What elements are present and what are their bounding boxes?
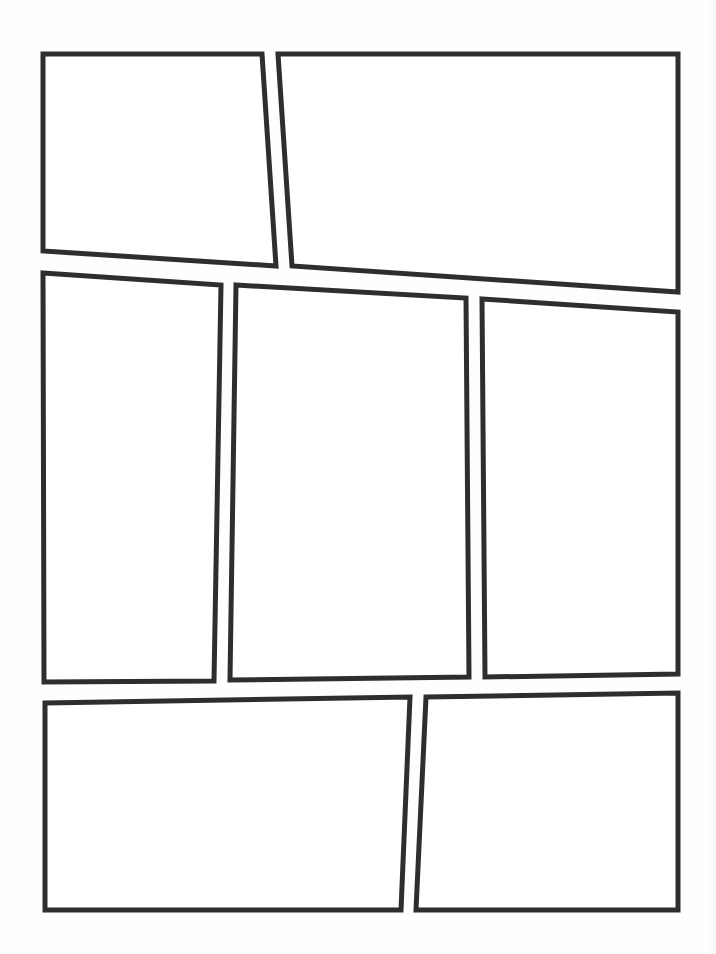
- panel-7[interactable]: [416, 693, 678, 910]
- panel-4[interactable]: [230, 285, 469, 680]
- page-edge-shade: [708, 0, 716, 954]
- panel-6[interactable]: [45, 697, 410, 910]
- comic-page: [0, 0, 716, 954]
- panel-layout: [0, 0, 716, 954]
- panel-2[interactable]: [278, 54, 678, 292]
- panel-1[interactable]: [43, 54, 276, 266]
- panel-5[interactable]: [482, 299, 678, 677]
- panel-3[interactable]: [43, 273, 221, 682]
